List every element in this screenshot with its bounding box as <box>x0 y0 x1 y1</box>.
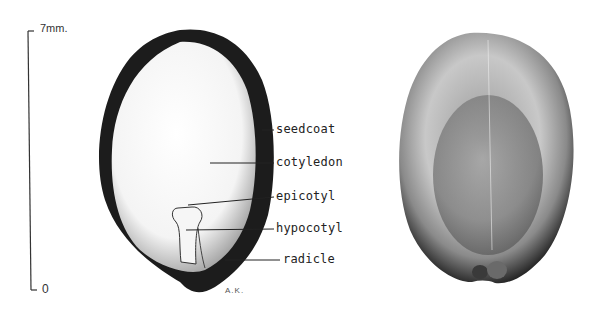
label-seedcoat: seedcoat <box>276 122 335 136</box>
label-epicotyl: epicotyl <box>276 189 335 203</box>
scale-top-label: 7mm. <box>40 22 68 34</box>
artist-signature: A.K. <box>225 286 244 295</box>
label-radicle: radicle <box>283 252 335 266</box>
scale-bottom-label: 0 <box>42 282 49 296</box>
label-hypocotyl: hypocotyl <box>276 221 343 235</box>
scale-bar <box>28 31 37 290</box>
label-cotyledon: cotyledon <box>276 155 343 169</box>
seed-section-drawing <box>99 29 274 292</box>
seed-exterior-drawing <box>399 33 573 283</box>
